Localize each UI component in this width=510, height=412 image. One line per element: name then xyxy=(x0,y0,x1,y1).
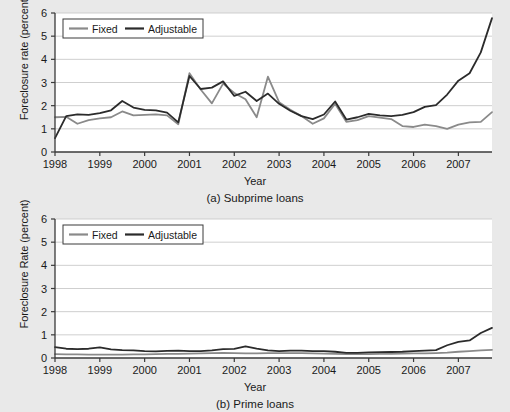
y-tick-label: 0 xyxy=(41,352,47,364)
x-tick-label: 2004 xyxy=(312,364,336,376)
chart-prime-loans: 0123456 19981999200020012002200320042005… xyxy=(0,206,510,381)
y-tick-label: 4 xyxy=(41,259,47,271)
panel-subprime-loans: 0123456 19981999200020012002200320042005… xyxy=(0,0,510,206)
y-tick-label: 4 xyxy=(41,53,47,65)
legend: Fixed Adjustable xyxy=(63,225,203,244)
x-tick-label: 2005 xyxy=(356,158,380,170)
y-tick-label: 1 xyxy=(41,123,47,135)
x-tick-label: 2007 xyxy=(446,364,470,376)
y-axis-title: Foreclosure Rate (percent) xyxy=(18,194,30,334)
x-tick-label: 2002 xyxy=(222,158,246,170)
x-tick-label: 2006 xyxy=(401,364,425,376)
x-tick-label: 2004 xyxy=(312,158,336,170)
y-tick-label: 0 xyxy=(41,146,47,158)
panel-caption: (b) Prime loans xyxy=(0,398,510,410)
legend: Fixed Adjustable xyxy=(63,19,203,38)
x-tick-label: 2001 xyxy=(177,158,201,170)
x-tick-label: 2005 xyxy=(356,364,380,376)
x-axis-title: Year xyxy=(0,381,510,393)
x-tick-label: 2003 xyxy=(267,158,291,170)
panel-prime-loans: 0123456 19981999200020012002200320042005… xyxy=(0,206,510,412)
y-tick-label: 5 xyxy=(41,236,47,248)
x-tick-label: 1999 xyxy=(88,158,112,170)
x-tick-label: 2000 xyxy=(132,364,156,376)
x-tick-label: 2001 xyxy=(177,364,201,376)
x-axis-title: Year xyxy=(0,175,510,187)
y-tick-label: 2 xyxy=(41,306,47,318)
y-axis-ticks: 0123456 xyxy=(41,213,55,364)
y-tick-label: 3 xyxy=(41,283,47,295)
y-tick-label: 5 xyxy=(41,30,47,42)
panel-caption: (a) Subprime loans xyxy=(0,192,510,204)
x-tick-label: 2003 xyxy=(267,364,291,376)
x-tick-label: 2002 xyxy=(222,364,246,376)
x-tick-label: 2007 xyxy=(446,158,470,170)
y-tick-label: 1 xyxy=(41,329,47,341)
y-tick-label: 2 xyxy=(41,100,47,112)
y-axis-title: Foreclosure rate (percent) xyxy=(18,0,30,128)
y-tick-label: 6 xyxy=(41,213,47,225)
x-tick-label: 1999 xyxy=(88,364,112,376)
legend-label-fixed: Fixed xyxy=(92,229,118,241)
y-axis-ticks: 0123456 xyxy=(41,7,55,158)
x-axis-ticks: 1998199920002001200220032004200520062007 xyxy=(43,358,471,376)
y-tick-label: 3 xyxy=(41,77,47,89)
y-tick-label: 6 xyxy=(41,7,47,19)
x-tick-label: 2000 xyxy=(132,158,156,170)
figure-foreclosure-rates: 0123456 19981999200020012002200320042005… xyxy=(0,0,510,412)
legend-label-adjustable: Adjustable xyxy=(148,229,197,241)
x-tick-label: 1998 xyxy=(43,364,67,376)
x-axis-ticks: 1998199920002001200220032004200520062007 xyxy=(43,152,471,170)
chart-subprime-loans: 0123456 19981999200020012002200320042005… xyxy=(0,0,510,175)
legend-label-fixed: Fixed xyxy=(92,23,118,35)
x-tick-label: 2006 xyxy=(401,158,425,170)
legend-label-adjustable: Adjustable xyxy=(148,23,197,35)
x-tick-label: 1998 xyxy=(43,158,67,170)
